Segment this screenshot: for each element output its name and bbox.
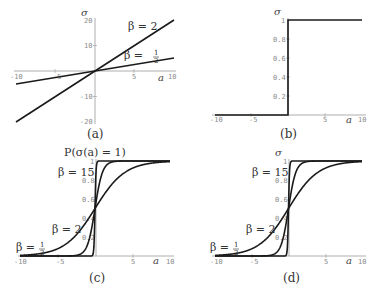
- caption-d: (d): [283, 271, 300, 285]
- tick-label: -5: [56, 258, 64, 266]
- tick-label: 1: [283, 158, 287, 166]
- svg-text:β =: β =: [16, 241, 35, 254]
- tick-label: 0.6: [273, 55, 286, 63]
- annotation-beta-15: β = 15: [58, 166, 95, 179]
- figure-root: -10 -5 5 10 20 10 -10 -20 σ a β = 2 β = …: [0, 0, 375, 294]
- tick-label: 0.6: [82, 196, 95, 204]
- tick-label: -5: [250, 258, 258, 266]
- svg-text:1: 1: [234, 241, 238, 249]
- step-curve: [215, 20, 362, 115]
- tick-label: -5: [249, 116, 257, 124]
- y-axis-label: σ: [274, 6, 282, 17]
- tick-label: -10: [14, 258, 27, 266]
- tick-label: 5: [131, 258, 135, 266]
- tick-label: 10: [168, 73, 176, 81]
- tick-label: 1: [90, 158, 94, 166]
- annotation-beta-15: β = 15: [252, 166, 289, 179]
- annotation-beta-2: β = 2: [128, 20, 158, 33]
- svg-text:1: 1: [40, 241, 44, 249]
- tick-label: 10: [166, 258, 174, 266]
- annotation-beta-2: β = 2: [246, 223, 276, 236]
- tick-label: 20: [84, 17, 92, 25]
- svg-text:2: 2: [40, 249, 44, 257]
- tick-label: 5: [324, 258, 328, 266]
- panel-a: -10 -5 5 10 20 10 -10 -20 σ a β = 2 β = …: [10, 7, 176, 141]
- tick-label: -10: [210, 258, 223, 266]
- panel-d: -10 -5 5 10 1 0.8 0.6 0.4 0.2 σ a β = 15…: [210, 147, 366, 285]
- tick-label: -10: [80, 93, 93, 101]
- x-axis-label: a: [346, 255, 352, 266]
- y-axis-label: σ: [275, 147, 283, 158]
- tick-label: 10: [358, 258, 366, 266]
- tick-label: 0.6: [275, 196, 288, 204]
- x-axis-label: a: [153, 255, 159, 266]
- x-axis-label: a: [346, 114, 352, 125]
- tick-label: 1: [281, 17, 285, 25]
- tick-label: 0.4: [273, 74, 286, 82]
- y-axis-label: σ: [81, 7, 89, 18]
- caption-b: (b): [280, 127, 297, 141]
- tick-label: 0.8: [273, 36, 286, 44]
- x-axis-label: a: [158, 72, 164, 83]
- svg-text:1: 1: [154, 49, 158, 57]
- svg-text:β =: β =: [210, 241, 229, 254]
- svg-text:2: 2: [154, 57, 158, 65]
- svg-text:2: 2: [234, 249, 238, 257]
- panel-c: -10 -5 5 10 1 0.8 0.6 0.4 0.2 P(σ(a) = 1…: [14, 146, 174, 285]
- svg-text:β =: β =: [124, 49, 143, 62]
- tick-label: 0.2: [273, 93, 286, 101]
- panel-title: P(σ(a) = 1): [64, 146, 126, 159]
- tick-label: 5: [132, 73, 136, 81]
- tick-label: 0.2: [275, 234, 288, 242]
- annotation-beta-2: β = 2: [52, 223, 82, 236]
- tick-label: 10: [358, 116, 366, 124]
- tick-label: 10: [84, 42, 92, 50]
- caption-c: (c): [89, 271, 105, 285]
- panel-b: -10 -5 5 10 1 0.8 0.6 0.4 0.2 σ a (b): [210, 6, 366, 141]
- tick-label: 5: [323, 116, 327, 124]
- tick-label: -10: [10, 73, 23, 81]
- caption-a: (a): [87, 127, 104, 141]
- tick-label: -20: [80, 118, 93, 126]
- tick-label: -10: [210, 116, 223, 124]
